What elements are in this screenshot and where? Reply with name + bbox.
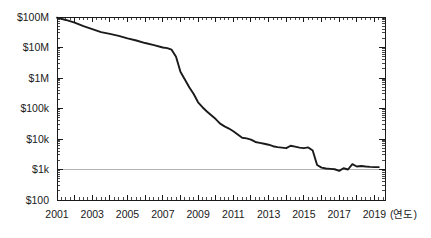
plot-border <box>57 17 385 200</box>
x-axis-label: 2013 <box>257 208 281 220</box>
y-axis-ticks <box>57 17 63 200</box>
x-axis-unit-label: (연도) <box>390 208 417 220</box>
x-axis-labels: 2001200320052007200920112013201520172019 <box>45 208 386 220</box>
x-axis-label: 2009 <box>186 208 210 220</box>
x-axis-label: 2015 <box>292 208 316 220</box>
sequencing-cost-chart: $100M$10M$1M$100k$10k$1k$100 20012003200… <box>0 0 431 238</box>
y-axis-label: $100 <box>26 194 50 206</box>
x-axis-unit: (연도) <box>390 208 417 220</box>
x-axis-label: 2011 <box>222 208 245 220</box>
plot-frame <box>57 17 385 200</box>
chart-canvas: $100M$10M$1M$100k$10k$1k$100 20012003200… <box>0 0 431 238</box>
x-axis-label: 2003 <box>81 208 105 220</box>
x-axis-label: 2017 <box>327 208 351 220</box>
y-axis-label: $10k <box>26 133 50 145</box>
y-axis-label: $100k <box>20 102 49 114</box>
series-line-cost <box>57 18 379 171</box>
y-axis-label: $100M <box>17 11 49 23</box>
y-axis-label: $10M <box>23 41 49 53</box>
x-axis-label: 2007 <box>151 208 175 220</box>
y-axis-label: $1k <box>32 163 50 175</box>
x-axis-label: 2019 <box>363 208 387 220</box>
x-axis-ticks <box>57 17 385 200</box>
x-axis-label: 2005 <box>116 208 140 220</box>
x-axis-label: 2001 <box>45 208 69 220</box>
data-series-group <box>57 18 379 171</box>
y-axis-label: $1M <box>29 72 49 84</box>
y-axis-labels: $100M$10M$1M$100k$10k$1k$100 <box>17 11 50 206</box>
